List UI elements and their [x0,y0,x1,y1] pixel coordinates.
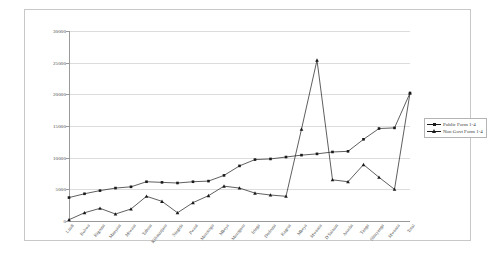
x-axis-tick-label: Kagera [280,223,292,237]
data-point-marker [207,194,211,197]
data-point-marker [362,138,365,141]
y-axis-tick-mark [66,221,69,222]
x-axis-tick-label: Mbeya [295,223,307,236]
data-series-layer [69,31,410,221]
x-axis-tick-label: D'Salaam [323,223,338,240]
series-line-public [69,93,410,198]
data-point-marker [378,127,381,130]
data-point-marker [331,151,334,154]
data-point-marker [238,165,241,168]
y-axis-tick-label: 15000 [53,124,66,129]
data-point-marker [99,189,102,192]
data-point-marker [145,195,149,198]
data-point-marker [269,158,272,161]
x-axis-tick-label: Mororogo [199,223,215,241]
plot-area [69,31,410,221]
data-point-marker [347,150,350,153]
data-point-marker [223,174,226,177]
y-axis-tick-mark [66,63,69,64]
x-axis-tick-label: Manyara [107,223,121,239]
data-point-marker [145,180,148,183]
x-axis-tick-label: Dodoma [263,223,277,239]
data-point-marker [130,186,133,189]
data-point-marker [191,201,195,204]
legend-item-public: Public Form 1-4 [427,121,483,128]
data-point-marker [192,180,195,183]
data-point-marker [300,127,304,130]
x-axis-tick-label: Arusha [342,223,354,237]
y-axis-tick-label: 20000 [53,92,66,97]
y-axis-tick-label: 25000 [53,60,66,65]
legend-item-non-govt: Non Govt Form 1-4 [427,128,483,135]
data-point-marker [362,163,366,166]
x-axis-tick-label: Mtwara [124,223,137,238]
data-point-marker [98,207,102,210]
data-point-marker [161,181,164,184]
y-axis-tick-mark [66,94,69,95]
x-axis-tick-label: Singida [171,223,184,237]
y-axis-tick-mark [66,31,69,32]
x-axis-tick-label: Total [406,223,416,234]
x-axis-tick-label: Kigoma [93,223,106,238]
legend-marker-square-icon [427,121,441,128]
y-axis-tick-mark [66,126,69,127]
data-point-marker [254,158,257,161]
data-point-marker [68,196,71,199]
y-axis-tick-mark [66,189,69,190]
data-point-marker [393,127,396,130]
y-axis-tick-label: 30000 [53,29,66,34]
data-point-marker [207,180,210,183]
x-axis-tick-label: Shinyanga [369,223,385,242]
x-axis-tick-label: Tabora [140,223,152,236]
x-axis-tick-label: Mbeya [218,223,230,236]
data-point-marker [285,156,288,159]
series-line-non-govt [69,60,410,220]
legend-marker-triangle-icon [427,128,441,135]
data-point-marker [114,187,117,190]
chart-legend: Public Form 1-4 Non Govt Form 1-4 [424,118,487,138]
x-axis-line [69,221,410,222]
data-point-marker [316,153,319,156]
legend-label-non-govt: Non Govt Form 1-4 [443,129,483,134]
x-axis-tick-label: Rukwa [78,223,90,237]
x-axis-tick-label: Pwani [188,223,199,235]
x-axis-tick-label: Morogoro [230,223,246,241]
x-axis-tick-label: Iringa [250,223,261,235]
y-axis-tick-label: 10000 [53,155,66,160]
y-axis-labels: 050001000015000200002500030000 [25,31,66,221]
x-axis-labels: LindiRukwaKigomaManyaraMtwaraTaboraKilim… [69,223,410,261]
chart-figure: 050001000015000200002500030000 LindiRukw… [0,0,494,261]
x-axis-tick-label: Tanga [358,223,369,235]
x-axis-tick-label: Lindi [65,223,75,234]
x-axis-tick-label: Mwanza [387,223,401,239]
data-point-marker [176,182,179,185]
data-point-marker [83,192,86,195]
x-axis-tick-label: Mwanza [309,223,323,239]
data-point-marker [315,58,319,61]
y-axis-tick-label: 5000 [56,187,66,192]
chart-frame: 050001000015000200002500030000 LindiRukw… [24,9,471,241]
data-point-marker [300,154,303,157]
legend-label-public: Public Form 1-4 [443,122,476,127]
y-axis-tick-mark [66,158,69,159]
